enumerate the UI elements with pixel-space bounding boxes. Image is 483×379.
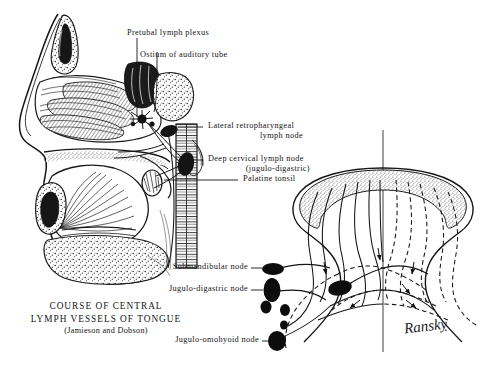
node-submandibular	[262, 263, 284, 275]
label-lateral-retropharyngeal-line2: lymph node	[208, 131, 303, 142]
node-small-lower	[280, 321, 288, 330]
node-small-mid	[280, 304, 290, 316]
label-jugulo-digastric-node: Jugulo-digastric node	[148, 284, 248, 295]
label-ostium-of-auditory-tube: Ostium of auditory tube	[140, 50, 228, 61]
node-small-upper	[261, 301, 272, 314]
caption-line-3: (Jamieson and Dobson)	[24, 325, 188, 338]
vertebral-column	[176, 124, 197, 268]
label-deep-cervical-line1: Deep cervical lymph node	[208, 154, 304, 165]
node-jugulo-omohyoid	[268, 331, 286, 351]
figure-canvas: Pretubal lymph plexus Ostium of auditory…	[0, 0, 483, 379]
label-lateral-retropharyngeal-line1: Lateral retropharyngeal	[208, 121, 294, 132]
label-submandibular-node: Submandibular node	[150, 262, 248, 273]
caption-line-1: COURSE OF CENTRAL	[24, 300, 188, 313]
node-jugulo-digastric	[264, 278, 281, 302]
figure-caption: COURSE OF CENTRAL LYMPH VESSELS OF TONGU…	[24, 300, 188, 338]
cervical-lymph-node-chain	[261, 263, 354, 351]
label-deep-cervical-line2: (jugulo-digastric)	[208, 164, 310, 175]
label-pretubal-lymph-plexus: Pretubal lymph plexus	[127, 28, 209, 39]
node-deep-cervical-lateral	[327, 278, 354, 298]
caption-line-2: LYMPH VESSELS OF TONGUE	[24, 313, 188, 326]
label-palatine-tonsil: Palatine tonsil	[243, 174, 296, 185]
